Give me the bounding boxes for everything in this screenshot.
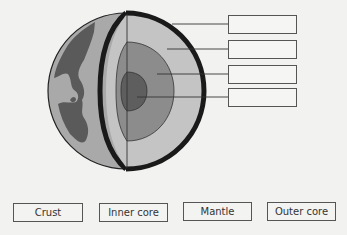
word-outer-core[interactable]: Outer core	[267, 202, 336, 221]
earth-layers-diagram	[0, 0, 347, 235]
word-mantle[interactable]: Mantle	[183, 202, 252, 221]
answer-box-2[interactable]	[228, 40, 297, 59]
answer-box-4[interactable]	[228, 88, 297, 107]
answer-box-3[interactable]	[228, 65, 297, 84]
word-inner-core[interactable]: Inner core	[99, 203, 168, 222]
word-crust[interactable]: Crust	[13, 203, 83, 222]
cutaway-interior	[100, 13, 210, 169]
answer-box-1[interactable]	[228, 15, 297, 34]
